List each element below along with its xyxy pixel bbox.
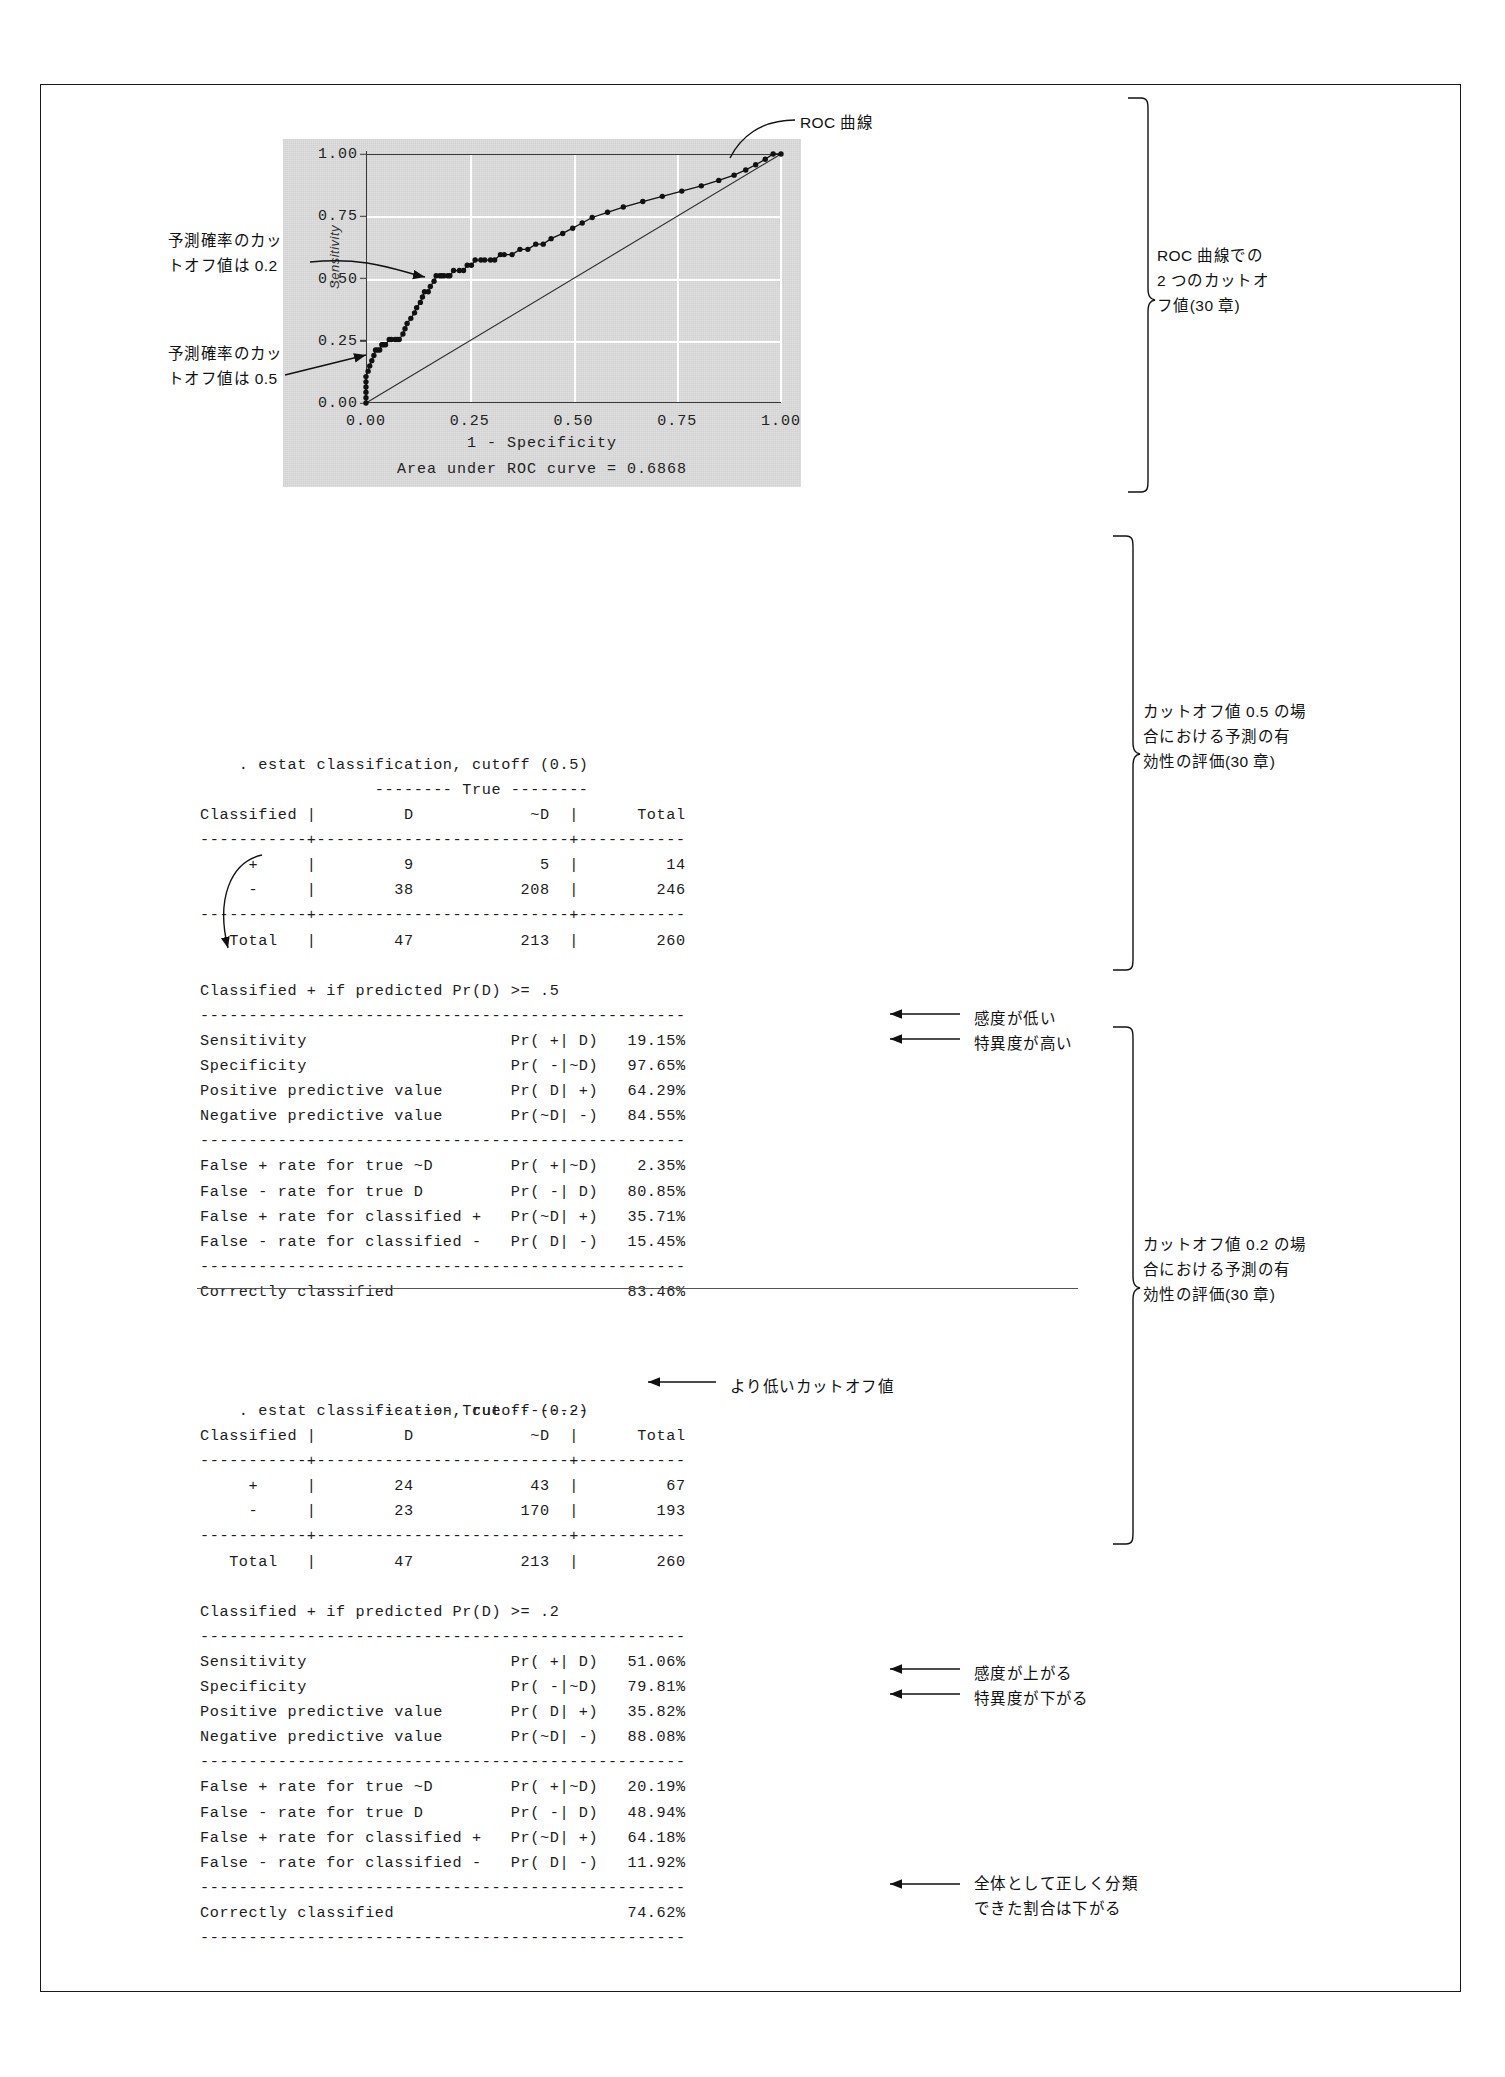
roc-data-point <box>383 342 388 347</box>
roc-data-point <box>743 167 748 172</box>
annotation-lower-cutoff: より低いカットオフ値 <box>730 1374 894 1396</box>
roc-data-point <box>412 310 417 315</box>
annotation-cutoff-02: 予測確率のカッ トオフ値は 0.2 <box>168 228 308 278</box>
y-tick-050: 0.50 <box>318 270 366 287</box>
chart-plot-area: 1.00 0.75 0.50 0.25 0.00 0.00 0.25 0.50 … <box>366 154 781 403</box>
roc-data-point <box>778 151 783 156</box>
annotation-cutoff-05: 予測確率のカッ トオフ値は 0.5 <box>168 341 308 391</box>
roc-data-point <box>363 395 368 400</box>
roc-data-point <box>502 252 507 257</box>
roc-data-point <box>509 252 514 257</box>
x-tick-025: 0.25 <box>450 403 490 430</box>
y-tick-075: 0.75 <box>318 208 366 225</box>
annotation-roc-curve-label: ROC 曲線 <box>800 110 920 135</box>
roc-data-point <box>363 374 368 379</box>
roc-data-point <box>420 294 425 299</box>
roc-data-point <box>525 247 530 252</box>
page-root: Sensitivity 1.00 0.75 0.50 0.25 0.00 0.0… <box>0 0 1505 2077</box>
annotation-right-chart: ROC 曲線での 2 つのカットオ フ値(30 章) <box>1157 243 1297 318</box>
roc-data-point <box>580 220 585 225</box>
x-tick-000: 0.00 <box>346 403 386 430</box>
roc-data-point <box>414 305 419 310</box>
x-tick-100: 1.00 <box>761 403 801 430</box>
annotation-sensitivity-low: 感度が低い <box>974 1006 1056 1028</box>
roc-data-point <box>469 263 474 268</box>
annotation-right-block1: カットオフ値 0.5 の場 合における予測の有 効性の評価(30 章) <box>1143 699 1315 774</box>
annotation-correctly-classified-down: 全体として正しく分類 できた割合は下がる <box>974 1871 1194 1921</box>
roc-data-point <box>451 268 456 273</box>
roc-data-point <box>431 279 436 284</box>
annotation-right-block2: カットオフ値 0.2 の場 合における予測の有 効性の評価(30 章) <box>1143 1232 1315 1307</box>
roc-data-point <box>371 353 376 358</box>
y-tick-025: 0.25 <box>318 332 366 349</box>
roc-data-point <box>621 204 626 209</box>
roc-chart: Sensitivity 1.00 0.75 0.50 0.25 0.00 0.0… <box>283 139 801 487</box>
roc-data-point <box>548 236 553 241</box>
roc-data-point <box>699 183 704 188</box>
roc-data-point <box>367 363 372 368</box>
roc-data-point <box>418 300 423 305</box>
annotation-specificity-down: 特異度が下がる <box>974 1686 1089 1708</box>
x-tick-075: 0.75 <box>657 403 697 430</box>
stata-output-block-2-body: -------- True -------- Classified | D ~D… <box>200 1399 686 1951</box>
roc-data-point <box>404 321 409 326</box>
roc-data-point <box>447 273 452 278</box>
roc-data-point <box>363 400 368 405</box>
block1-bottom-rule <box>197 1288 1078 1289</box>
reference-diagonal-line <box>366 154 781 403</box>
roc-data-point <box>377 347 382 352</box>
stata-output-block-1-body: -------- True -------- Classified | D ~D… <box>200 778 686 1305</box>
roc-curve-svg <box>366 154 781 403</box>
roc-data-point <box>517 247 522 252</box>
roc-data-point <box>763 157 768 162</box>
roc-data-point <box>363 384 368 389</box>
roc-data-point <box>716 178 721 183</box>
roc-data-point <box>679 188 684 193</box>
roc-data-point <box>640 199 645 204</box>
roc-data-point <box>492 257 497 262</box>
roc-data-point <box>472 257 477 262</box>
roc-data-point <box>589 215 594 220</box>
annotation-sensitivity-up: 感度が上がる <box>974 1661 1072 1683</box>
x-tick-050: 0.50 <box>553 403 593 430</box>
roc-data-point <box>570 226 575 231</box>
roc-data-point <box>402 326 407 331</box>
roc-data-point <box>363 390 368 395</box>
roc-data-point <box>541 241 546 246</box>
chart-x-axis-label: 1 - Specificity <box>283 435 801 452</box>
roc-data-point <box>426 289 431 294</box>
roc-data-point <box>408 316 413 321</box>
roc-data-point <box>428 284 433 289</box>
stata-block1-command: . estat classification, cutoff (0.5) <box>239 756 589 774</box>
roc-data-point <box>397 337 402 342</box>
annotation-specificity-high: 特異度が高い <box>974 1031 1072 1053</box>
roc-data-point <box>560 231 565 236</box>
roc-data-point <box>753 162 758 167</box>
roc-data-point <box>369 358 374 363</box>
roc-data-point <box>731 172 736 177</box>
roc-data-point <box>461 268 466 273</box>
roc-data-point <box>660 194 665 199</box>
roc-data-point <box>605 210 610 215</box>
roc-data-point <box>533 241 538 246</box>
chart-auc-label: Area under ROC curve = 0.6868 <box>283 461 801 478</box>
roc-data-point <box>365 368 370 373</box>
roc-data-point <box>400 331 405 336</box>
roc-data-point <box>770 151 775 156</box>
y-tick-100: 1.00 <box>318 146 366 163</box>
roc-data-point <box>482 257 487 262</box>
roc-data-point <box>363 379 368 384</box>
